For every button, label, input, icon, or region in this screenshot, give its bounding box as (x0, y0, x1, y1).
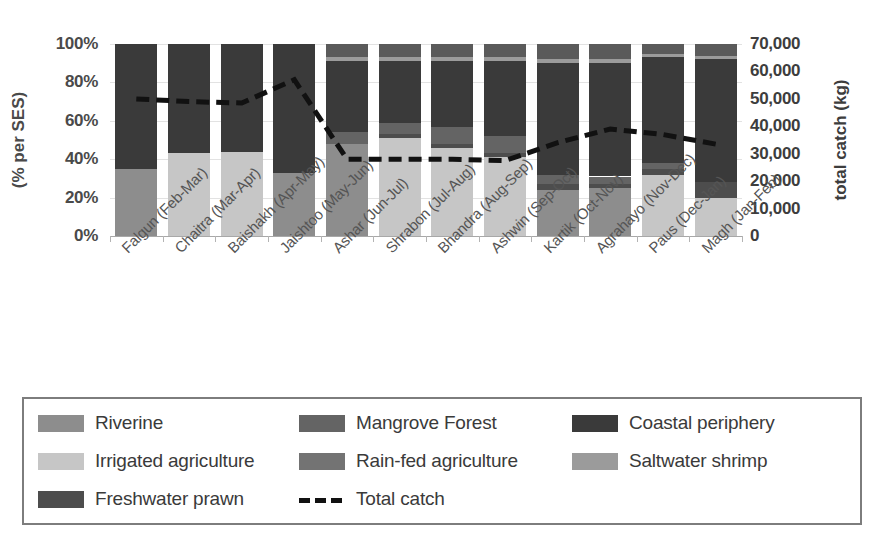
y-axis-left-title-text: (% per SES) (9, 92, 29, 188)
legend-swatch-icon (38, 415, 84, 432)
legend-item-label: Irrigated agriculture (95, 450, 255, 472)
legend-item[interactable]: Riverine (38, 405, 163, 441)
y-axis-left-tick-label: 20% (65, 188, 98, 208)
y-axis-left-title: (% per SES) (6, 44, 32, 236)
y-axis-left-ticks: 0%20%40%60%80%100% (44, 34, 106, 246)
legend-swatch-icon (572, 453, 618, 470)
legend-item-label: Freshwater prawn (95, 488, 244, 510)
legend-swatch-icon (299, 453, 345, 470)
total-catch-line-path (136, 80, 715, 161)
legend-dashed-line-icon (299, 491, 345, 508)
legend-item[interactable]: Rain-fed agriculture (299, 443, 518, 479)
legend-item-label: Rain-fed agriculture (356, 450, 518, 472)
legend-item[interactable]: Freshwater prawn (38, 481, 244, 517)
y-axis-right-tick-label: 30,000 (750, 144, 800, 164)
legend-item-label: Saltwater shrimp (629, 450, 767, 472)
legend-item[interactable]: Coastal periphery (572, 405, 775, 441)
legend-swatch-icon (572, 415, 618, 432)
legend-item-label: Total catch (356, 488, 445, 510)
y-axis-right-tick-label: 40,000 (750, 116, 800, 136)
y-axis-right-tick-label: 70,000 (750, 34, 800, 54)
y-axis-left-tick-label: 40% (65, 149, 98, 169)
legend-swatch-icon (299, 415, 345, 432)
legend-swatch-icon (38, 491, 84, 508)
x-axis-labels: Falgun (Feb-Mar)Chaitra (Mar-Apr)Baishak… (0, 240, 884, 390)
chart-legend: RiverineMangrove ForestCoastal periphery… (22, 397, 862, 525)
plot-area-wrapper: (% per SES) 0%20%40%60%80%100% 010,00020… (0, 0, 884, 395)
legend-item[interactable]: Mangrove Forest (299, 405, 497, 441)
y-axis-left-tick-label: 100% (56, 34, 98, 54)
legend-item-label: Riverine (95, 412, 163, 434)
y-axis-left-tick-label: 80% (65, 72, 98, 92)
y-axis-right-title-text: total catch (kg) (831, 80, 851, 201)
y-axis-left-tick-label: 60% (65, 111, 98, 131)
y-axis-right-tick-label: 60,000 (750, 61, 800, 81)
legend-item-label: Mangrove Forest (356, 412, 497, 434)
legend-item-label: Coastal periphery (629, 412, 775, 434)
y-axis-right-tick-label: 50,000 (750, 89, 800, 109)
legend-item[interactable]: Irrigated agriculture (38, 443, 255, 479)
y-axis-right-title: total catch (kg) (828, 44, 854, 236)
legend-item[interactable]: Saltwater shrimp (572, 443, 767, 479)
legend-swatch-icon (38, 453, 84, 470)
legend-item[interactable]: Total catch (299, 481, 445, 517)
chart-figure: (% per SES) 0%20%40%60%80%100% 010,00020… (0, 0, 884, 547)
y-axis-right-ticks: 010,00020,00030,00040,00050,00060,00070,… (750, 34, 830, 246)
